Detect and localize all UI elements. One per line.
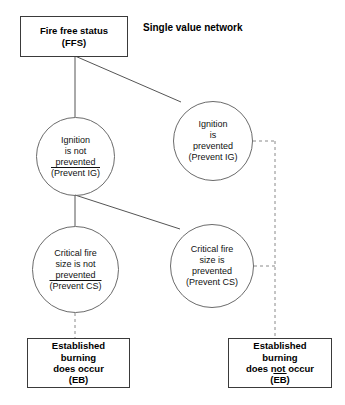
node-critical-size-prevented: Critical fire size is prevented (Prevent… (170, 224, 254, 308)
node-critical-size-prevented-line2: size is (173, 255, 251, 266)
node-established-burning-not-occurs-line1: Established (231, 340, 329, 351)
node-fire-free-status-line2: (FFS) (23, 37, 125, 48)
diagram-title: Single value network (143, 22, 242, 33)
node-ignition-prevented: Ignition is prevented (Prevent IG) (173, 101, 253, 181)
node-critical-size-not-prevented-line2: size is not (35, 259, 116, 270)
node-established-burning-not-occurs-text: Established burning does not occur (EB) (229, 340, 331, 386)
node-critical-size-not-prevented-line4-overlined: (Prevent CS) (49, 281, 101, 292)
node-established-burning-not-occurs-line3: does not occur (231, 363, 329, 374)
node-established-burning-occurs-line1: Established (30, 340, 127, 351)
node-fire-free-status-line1: Fire free status (23, 25, 125, 36)
node-ignition-not-prevented-line4: (Prevent IG) (39, 168, 112, 179)
node-ignition-not-prevented-line1: Ignition (39, 135, 112, 146)
node-ignition-prevented-text: Ignition is prevented (Prevent IG) (174, 119, 252, 163)
node-ignition-prevented-line4: (Prevent IG) (176, 152, 250, 163)
node-established-burning-occurs-line3: does occur (30, 363, 127, 374)
node-critical-size-not-prevented-line1: Critical fire (35, 248, 116, 259)
node-critical-size-prevented-text: Critical fire size is prevented (Prevent… (171, 244, 253, 288)
node-critical-size-not-prevented-text: Critical fire size is not prevented (Pre… (33, 248, 118, 292)
connector-ffs-to-ig-prevented (75, 56, 181, 102)
node-ignition-prevented-line1: Ignition (176, 119, 250, 130)
node-ignition-not-prevented-line3: prevented (39, 157, 112, 168)
node-critical-size-not-prevented-line4: (Prevent CS) (35, 281, 116, 292)
node-ignition-prevented-line2: is (176, 130, 250, 141)
node-ignition-not-prevented-line4-overlined: (Prevent IG) (51, 168, 100, 179)
node-ignition-not-prevented: Ignition is not prevented (Prevent IG) (36, 117, 115, 196)
node-established-burning-occurs-line4: (EB) (30, 374, 127, 385)
node-established-burning-occurs-line2: burning (30, 352, 127, 363)
node-ignition-not-prevented-line2: is not (39, 146, 112, 157)
node-established-burning-occurs-text: Established burning does occur (EB) (28, 340, 129, 386)
node-ignition-prevented-line3: prevented (176, 141, 250, 152)
node-critical-size-prevented-line4: (Prevent CS) (173, 277, 251, 288)
node-fire-free-status: Fire free status (FFS) (20, 16, 128, 57)
node-critical-size-not-prevented-line3: prevented (35, 270, 116, 281)
node-critical-size-not-prevented: Critical fire size is not prevented (Pre… (32, 226, 119, 313)
eb-not-occurs-paren-close: ) (287, 374, 290, 385)
node-established-burning-not-occurs-line2: burning (231, 352, 329, 363)
diagram-canvas: Single value network Fire free status (F… (0, 0, 345, 405)
node-critical-size-prevented-line3: prevented (173, 266, 251, 277)
node-established-burning-not-occurs-line4: (EB) (231, 374, 329, 385)
eb-not-occurs-symbol-overlined: EB (273, 374, 286, 385)
node-ignition-not-prevented-text: Ignition is not prevented (Prevent IG) (37, 135, 114, 179)
node-critical-size-prevented-line1: Critical fire (173, 244, 251, 255)
node-established-burning-not-occurs: Established burning does not occur (EB) (228, 338, 332, 388)
connector-ig-not-prevented-to-cs-prevented (75, 195, 180, 229)
node-fire-free-status-text: Fire free status (FFS) (21, 25, 127, 48)
node-established-burning-occurs: Established burning does occur (EB) (27, 338, 130, 388)
